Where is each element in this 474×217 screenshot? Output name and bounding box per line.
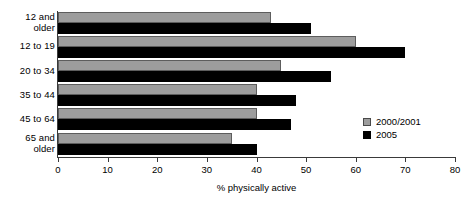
x-tick-mark (108, 157, 109, 162)
x-tick-label: 30 (192, 164, 222, 175)
x-tick-label: 60 (341, 164, 371, 175)
category-axis: 12 and older12 to 1920 to 3435 to 4445 t… (0, 11, 55, 157)
x-axis: 01020304050607080 (58, 157, 455, 181)
bar-2000-2001 (58, 60, 281, 71)
x-tick-label: 70 (390, 164, 420, 175)
bar-2000-2001 (58, 108, 257, 119)
legend-swatch-icon-2000-2001 (363, 118, 371, 126)
legend-label-2005: 2005 (376, 129, 397, 140)
x-tick-label: 80 (440, 164, 470, 175)
x-tick-label: 50 (291, 164, 321, 175)
x-tick-label: 0 (43, 164, 73, 175)
bar-2000-2001 (58, 133, 232, 144)
x-axis-title: % physically active (58, 182, 455, 193)
x-tick-mark (257, 157, 258, 162)
bar-2005 (58, 47, 405, 58)
legend-label-2000-2001: 2000/2001 (376, 116, 421, 127)
x-tick-mark (306, 157, 307, 162)
category-label: 12 and older (0, 12, 55, 33)
bar-2005 (58, 71, 331, 82)
legend-swatch-icon-2005 (363, 131, 371, 139)
x-tick-mark (58, 157, 59, 162)
category-label: 45 to 64 (0, 114, 55, 125)
bar-2005 (58, 119, 291, 130)
x-tick-mark (157, 157, 158, 162)
bar-2005 (58, 144, 257, 155)
category-label: 35 to 44 (0, 90, 55, 101)
x-tick-mark (207, 157, 208, 162)
bar-2005 (58, 95, 296, 106)
bar-2000-2001 (58, 12, 271, 23)
x-tick-mark (455, 157, 456, 162)
category-label: 65 and older (0, 133, 55, 154)
legend-item-2005: 2005 (363, 128, 421, 141)
x-tick-label: 10 (93, 164, 123, 175)
legend-item-2000-2001: 2000/2001 (363, 115, 421, 128)
chart-legend: 2000/2001 2005 (363, 115, 421, 141)
x-tick-mark (405, 157, 406, 162)
bar-chart: 12 and older12 to 1920 to 3435 to 4445 t… (0, 0, 474, 217)
bar-2005 (58, 23, 311, 34)
x-tick-label: 20 (142, 164, 172, 175)
bar-2000-2001 (58, 84, 257, 95)
x-tick-label: 40 (242, 164, 272, 175)
bar-2000-2001 (58, 36, 356, 47)
category-label: 12 to 19 (0, 41, 55, 52)
x-tick-mark (356, 157, 357, 162)
category-label: 20 to 34 (0, 66, 55, 77)
